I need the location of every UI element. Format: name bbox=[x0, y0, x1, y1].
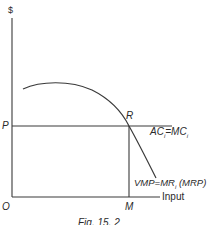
supply-label-ac: AC bbox=[150, 126, 164, 137]
x-axis-label: Input bbox=[162, 192, 184, 202]
diagram: $ P R ACi=MCi VMP=MRi (MRP) Input O M Fi… bbox=[0, 0, 215, 225]
equilibrium-point-label: R bbox=[126, 111, 133, 121]
demand-label-mrp: (MRP) bbox=[179, 177, 206, 188]
supply-label-mc-sub: i bbox=[187, 133, 188, 139]
price-label: P bbox=[2, 121, 9, 131]
y-axis-label: $ bbox=[8, 5, 13, 15]
demand-label-vmp: VMP bbox=[134, 177, 155, 188]
supply-label-mc: MC bbox=[171, 126, 187, 137]
origin-label: O bbox=[2, 202, 10, 212]
figure-caption: Fig. 15. 2 bbox=[78, 218, 120, 225]
supply-line-label: ACi=MCi bbox=[150, 127, 188, 138]
demand-curve-label: VMP=MRi (MRP) bbox=[134, 178, 206, 189]
demand-label-mr: MR bbox=[160, 177, 175, 188]
quantity-label: M bbox=[125, 202, 133, 212]
vmp-curve bbox=[23, 83, 156, 178]
